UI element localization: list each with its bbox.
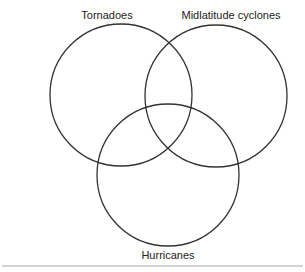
divider-line	[2, 265, 303, 267]
hurricanes-label: Hurricanes	[141, 249, 194, 261]
midlatitude-cyclones-circle	[145, 25, 287, 167]
tornadoes-circle	[50, 24, 192, 166]
venn-diagram: Tornadoes Midlatitude cyclones Hurricane…	[0, 0, 305, 272]
midlatitude-cyclones-label: Midlatitude cyclones	[181, 9, 280, 21]
tornadoes-label: Tornadoes	[81, 9, 132, 21]
venn-svg	[0, 0, 305, 272]
hurricanes-circle	[97, 104, 239, 246]
